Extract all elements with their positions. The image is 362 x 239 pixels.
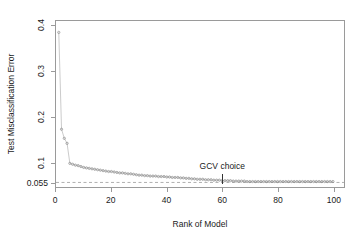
x-tick-mark (111, 188, 112, 192)
x-tick-label: 40 (162, 195, 171, 205)
x-tick-label: 0 (53, 195, 58, 205)
y-tick-label: 0.1 (36, 157, 46, 169)
x-tick-label: 80 (273, 195, 282, 205)
y-tick-mark (51, 183, 55, 184)
y-tick-mark (51, 25, 55, 26)
y-tick-mark (51, 71, 55, 72)
x-tick-mark (55, 188, 56, 192)
x-tick-label: 20 (106, 195, 115, 205)
y-tick-label: 0.2 (36, 111, 46, 123)
x-tick-mark (222, 188, 223, 192)
y-tick-label: 0.3 (36, 65, 46, 77)
x-tick-mark (334, 188, 335, 192)
x-axis-title: Rank of Model (173, 219, 228, 229)
x-tick-label: 100 (327, 195, 341, 205)
y-tick-mark (51, 163, 55, 164)
chart-figure: 0.0550.10.20.30.4 020406080100 Test Misc… (0, 0, 362, 239)
x-tick-mark (167, 188, 168, 192)
series-line (59, 32, 333, 181)
y-tick-label: 0.4 (36, 19, 46, 31)
y-tick-mark (51, 117, 55, 118)
x-tick-label: 60 (218, 195, 227, 205)
x-tick-mark (278, 188, 279, 192)
y-tick-label: 0.055 (27, 178, 48, 188)
y-axis-title: Test Misclassification Error (6, 54, 16, 155)
gcv-choice-annotation-label: GCV choice (200, 161, 245, 171)
gcv-choice-annotation-tick (222, 174, 223, 183)
series-markers (58, 31, 334, 182)
